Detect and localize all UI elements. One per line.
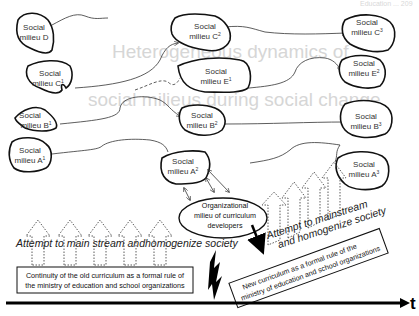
milieu-a1-label-2: milieu A1 [15,155,46,165]
milieu-c1-label-2: milieu C1 [32,78,64,88]
milieu-e2-label-1: Social [353,59,375,68]
old-curriculum-line2: the ministry of education and school org… [25,281,185,290]
milieu-e1-label-2: milieu E1 [200,76,231,86]
org-label-1: Organizational [202,201,249,210]
diagram-canvas: Education ... 209 Heterogeneous dynamics… [0,0,419,316]
milieu-d-label-2: milieu D [20,33,49,42]
org-label-2: milieu of curriculum [194,211,256,220]
milieu-c2-label-2: milieu C2 [189,31,221,41]
milieu-b3-label-1: Social [355,112,377,121]
milieu-a2-label-1: Social [172,157,194,166]
running-header: Education ... 209 [360,0,413,7]
attempt-left-text: Attempt to main stream andhomogenize soc… [15,237,239,249]
milieu-c3-label-1: Social [356,18,378,27]
milieu-e1-label-1: Social [205,67,227,76]
milieu-c3-label-2: milieu C3 [351,27,383,37]
milieu-b1-label-1: Social [19,111,41,120]
milieu-c1-label-1: Social [39,69,61,78]
milieu-a1-label-1: Social [19,146,41,155]
milieu-b2-label-2: milieu B2 [186,120,217,130]
milieu-a3-label-2: milieu A3 [349,169,380,179]
org-label-3: developers [207,221,243,230]
time-axis-arrowhead-icon [400,298,410,308]
milieu-b3-label-2: milieu B3 [350,121,381,131]
milieu-c2-label-1: Social [194,22,216,31]
time-axis-label: t [410,294,416,313]
milieu-e2-label-2: milieu E2 [348,68,379,78]
milieu-b1-label-2: milieu B1 [20,120,51,130]
milieu-b2-label-1: Social [191,111,213,120]
milieu-d-label-1: Social [23,23,45,32]
milieu-a2-label-2: milieu A2 [168,166,199,176]
break-lightning-icon [208,250,222,300]
old-curriculum-line1: Continuity of the old curriculum as a fo… [26,271,184,280]
milieu-a3-label-1: Social [353,160,375,169]
